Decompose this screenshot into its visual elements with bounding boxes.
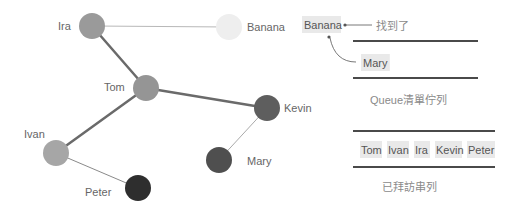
visited-item: Ivan bbox=[388, 144, 409, 156]
node-circle-kevin bbox=[254, 95, 280, 121]
found-note: 找到了 bbox=[376, 19, 409, 33]
node-circle-mary bbox=[206, 147, 232, 173]
visited-items: TomIvanIraKevinPeter bbox=[360, 141, 495, 158]
node-label-peter: Peter bbox=[85, 186, 112, 198]
node-circle-ivan bbox=[43, 140, 69, 166]
node-peter: Peter bbox=[85, 175, 151, 201]
dequeue-arrow-head-icon bbox=[327, 35, 330, 38]
node-label-banana: Banana bbox=[247, 21, 286, 33]
graph-nodes: IraBananaTomKevinIvanMaryPeter bbox=[24, 13, 312, 201]
queue-item: Mary bbox=[363, 57, 388, 69]
edge-ira-banana bbox=[92, 26, 229, 27]
dequeue-arrow bbox=[330, 38, 356, 62]
graph-diagram: IraBananaTomKevinIvanMaryPeter Banana 找到… bbox=[0, 0, 514, 214]
node-circle-ira bbox=[79, 13, 105, 39]
node-label-ira: Ira bbox=[58, 20, 72, 32]
node-circle-peter bbox=[125, 175, 151, 201]
node-circle-banana bbox=[216, 14, 242, 40]
visited-item: Kevin bbox=[436, 144, 464, 156]
node-label-mary: Mary bbox=[247, 155, 272, 167]
queue-items: Mary bbox=[361, 54, 390, 71]
node-ira: Ira bbox=[58, 13, 105, 39]
node-ivan: Ivan bbox=[24, 128, 69, 166]
node-banana: Banana bbox=[216, 14, 286, 40]
node-kevin: Kevin bbox=[254, 95, 312, 121]
visited-item: Ira bbox=[415, 144, 429, 156]
node-circle-tom bbox=[133, 75, 159, 101]
edge-tom-kevin bbox=[146, 88, 267, 108]
queue-caption: Queue清單佇列 bbox=[370, 93, 447, 106]
edge-tom-ivan bbox=[56, 88, 146, 153]
graph-edges bbox=[56, 26, 267, 188]
node-label-tom: Tom bbox=[104, 81, 125, 93]
found-item: Banana bbox=[302, 16, 343, 33]
visited-item: Peter bbox=[468, 144, 495, 156]
found-arrow-head-icon bbox=[343, 23, 346, 26]
visited-caption: 已拜訪串列 bbox=[382, 180, 437, 194]
node-mary: Mary bbox=[206, 147, 272, 173]
visited-item: Tom bbox=[361, 144, 382, 156]
node-label-ivan: Ivan bbox=[24, 128, 45, 140]
found-item-label: Banana bbox=[304, 19, 343, 31]
edge-ivan-peter bbox=[56, 153, 138, 188]
node-label-kevin: Kevin bbox=[284, 102, 312, 114]
